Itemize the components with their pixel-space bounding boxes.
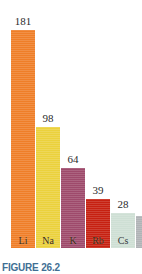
bar-value-label-li: 181 xyxy=(15,16,32,27)
bar-slot-fr: 27 Fr xyxy=(136,202,142,248)
figure-caption: FIGURE 26.2 xyxy=(2,262,142,274)
figure-container: 181 Li 98 Na 64 K 39 Rb xyxy=(0,0,142,274)
bar-k[interactable]: K xyxy=(61,168,85,248)
bar-li[interactable]: Li xyxy=(11,30,35,248)
bar-value-label-k: 64 xyxy=(68,154,79,165)
bar-category-label-rb: Rb xyxy=(86,236,110,246)
bar-slot-cs: 28 Cs xyxy=(111,199,135,248)
bar-value-label-rb: 39 xyxy=(93,185,104,196)
bar-category-label-cs: Cs xyxy=(111,236,135,246)
bar-chart-plot-area: 181 Li 98 Na 64 K 39 Rb xyxy=(0,0,142,261)
figure-caption-label: FIGURE 26.2 xyxy=(2,262,60,273)
bar-slot-na: 98 Na xyxy=(36,113,60,248)
bar-value-label-na: 98 xyxy=(43,113,54,124)
bar-cs[interactable]: Cs xyxy=(111,213,135,248)
bar-slot-li: 181 Li xyxy=(11,16,35,248)
bar-category-label-fr: Fr xyxy=(136,236,142,246)
bar-value-label-cs: 28 xyxy=(118,199,129,210)
bar-category-label-li: Li xyxy=(11,236,35,246)
bar-category-label-na: Na xyxy=(36,236,60,246)
bar-category-label-k: K xyxy=(61,236,85,246)
bar-rb[interactable]: Rb xyxy=(86,199,110,248)
bar-slot-k: 64 K xyxy=(61,154,85,248)
bar-fr[interactable]: Fr xyxy=(136,216,142,248)
bar-na[interactable]: Na xyxy=(36,127,60,248)
bar-slot-rb: 39 Rb xyxy=(86,185,110,248)
